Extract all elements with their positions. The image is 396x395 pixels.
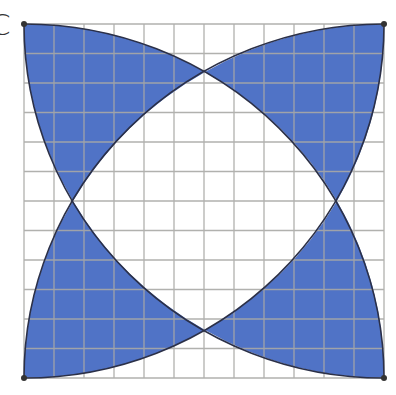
corner-dot-bottom-right [381,375,387,381]
corner-dot-top-right [381,21,387,27]
corner-dot-bottom-left [21,375,27,381]
diagram-canvas [0,0,396,395]
corner-dot-top-left [21,21,27,27]
